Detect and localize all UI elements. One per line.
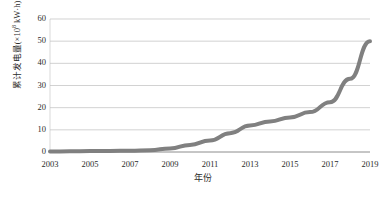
plot-svg — [50, 19, 370, 152]
x-axis-title: 年份 — [0, 172, 385, 184]
x-tick-label-2015: 2015 — [270, 159, 310, 170]
y-axis-title-exponent: 8 — [11, 25, 17, 28]
series-line-cumulative-generation — [50, 41, 370, 151]
x-tick-label-2013: 2013 — [230, 159, 270, 170]
plot-area — [50, 19, 370, 152]
y-tick-label-30: 30 — [22, 81, 46, 90]
x-tick-label-2011: 2011 — [190, 159, 230, 170]
y-tick-label-10: 10 — [22, 125, 46, 134]
x-tick-label-2019: 2019 — [350, 159, 385, 170]
y-tick-label-20: 20 — [22, 103, 46, 112]
y-tick-label-40: 40 — [22, 58, 46, 67]
y-tick-label-50: 50 — [22, 36, 46, 45]
x-tick-label-2005: 2005 — [70, 159, 110, 170]
y-tick-label-0: 0 — [22, 147, 46, 156]
x-tick-label-2007: 2007 — [110, 159, 150, 170]
y-tick-label-60: 60 — [22, 14, 46, 23]
chart-container: 累计发电量(×108 kW·h) 6050403020100 200320052… — [0, 0, 385, 197]
x-tick-label-2009: 2009 — [150, 159, 190, 170]
x-axis-title-label: 年份 — [194, 172, 212, 184]
gridlines — [50, 19, 370, 152]
x-tick-label-2003: 2003 — [30, 159, 70, 170]
x-tick-label-2017: 2017 — [310, 159, 350, 170]
x-axis-tick-labels: 200320052007200920112013201520172019 — [0, 159, 385, 171]
y-axis-title: 累计发电量(×108 kW·h) — [7, 0, 21, 111]
